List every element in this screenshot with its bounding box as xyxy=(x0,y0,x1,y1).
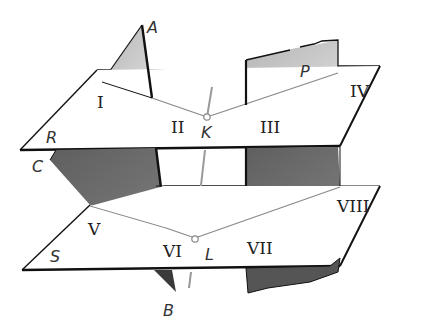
label-region-4: IV xyxy=(350,81,370,101)
plane-r xyxy=(20,66,380,150)
label-k: K xyxy=(201,123,213,142)
label-region-5: V xyxy=(87,219,101,239)
label-region-7: VII xyxy=(246,238,273,258)
label-b: B xyxy=(163,301,174,320)
label-p: P xyxy=(300,62,310,81)
label-region-8: VIII xyxy=(336,196,369,216)
label-r: R xyxy=(46,128,57,147)
label-region-1: I xyxy=(97,92,104,112)
label-region-6: VI xyxy=(162,241,182,261)
point-l xyxy=(192,236,198,242)
label-a: A xyxy=(146,18,158,37)
plane-s xyxy=(22,186,380,270)
label-region-2: II xyxy=(171,117,184,137)
surface-bottom-left xyxy=(154,270,176,292)
label-c: C xyxy=(32,157,44,176)
label-l: L xyxy=(205,245,214,264)
diagram-canvas: A B C K L P R S I II III IV V VI VII VII… xyxy=(0,0,421,329)
label-s: S xyxy=(50,247,60,266)
label-region-3: III xyxy=(260,117,280,137)
line-ab-lower xyxy=(189,272,191,288)
point-k xyxy=(204,114,210,120)
